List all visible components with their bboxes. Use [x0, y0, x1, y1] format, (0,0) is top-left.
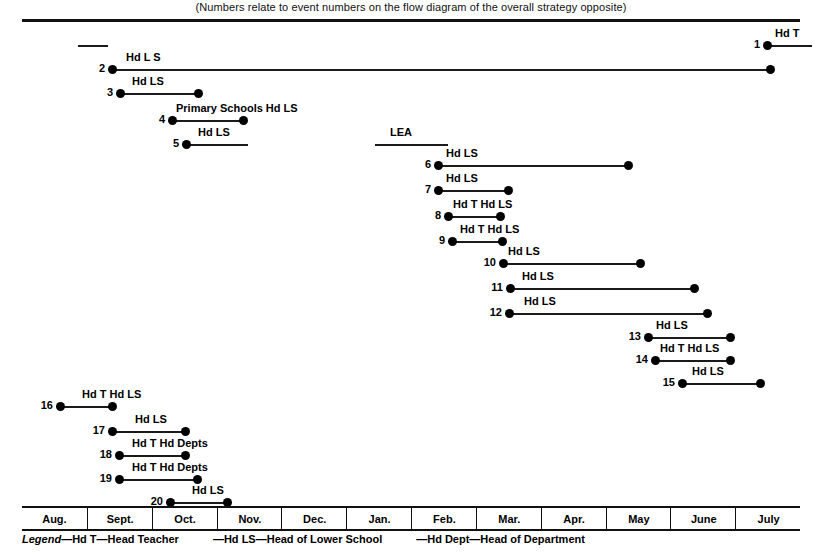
task-label: Hd LS — [135, 413, 167, 425]
task-number: 15 — [663, 376, 675, 388]
task-number: 3 — [107, 86, 113, 98]
task-bar — [172, 120, 243, 122]
task-bar — [78, 45, 108, 47]
task-start-dot — [448, 237, 457, 246]
task-label: Hd T — [775, 27, 799, 39]
task-bar — [448, 216, 500, 218]
task-row-8: 8Hd T Hd LS — [448, 211, 500, 223]
task-number: 4 — [159, 113, 165, 125]
legend-entry-hd-t: —Hd T—Head Teacher — [61, 533, 179, 545]
task-label: Hd T Hd Depts — [132, 437, 208, 449]
task-number: 5 — [173, 137, 179, 149]
task-row-15: 15Hd LS — [682, 378, 760, 390]
task-bar — [655, 360, 730, 362]
task-end-dot — [181, 451, 190, 460]
task-bar — [438, 190, 508, 192]
task-end-dot — [756, 379, 765, 388]
task-label: Hd T Hd Depts — [132, 461, 208, 473]
task-bar — [503, 263, 640, 265]
task-label: Hd LS — [508, 245, 540, 257]
task-end-dot — [636, 259, 645, 268]
task-end-dot — [690, 284, 699, 293]
task-bar — [510, 288, 694, 290]
task-end-dot — [703, 309, 712, 318]
task-row-6: 6Hd LS — [438, 160, 628, 172]
task-label: Hd LS — [524, 295, 556, 307]
task-row-3: 3Hd LS — [120, 88, 198, 100]
task-bar — [767, 45, 812, 47]
axis-month-apr: Apr. — [541, 508, 607, 529]
task-end-dot — [504, 186, 513, 195]
task-start-dot — [115, 451, 124, 460]
task-start-dot — [116, 89, 125, 98]
task-bar — [119, 479, 197, 481]
task-label: Hd LS — [656, 319, 688, 331]
task-start-dot — [499, 259, 508, 268]
task-number: 13 — [629, 330, 641, 342]
task-bar — [170, 502, 227, 504]
legend-title: Legend — [22, 533, 61, 545]
task-label: Hd LS — [192, 484, 224, 496]
axis-bottom-rule — [22, 529, 800, 531]
task-bar — [509, 313, 707, 315]
axis-month-oct: Oct. — [152, 508, 218, 529]
task-row-5: 5Hd LS — [186, 139, 248, 151]
task-start-dot — [444, 212, 453, 221]
task-start-dot — [505, 309, 514, 318]
task-row-9: 9Hd T Hd LS — [452, 236, 502, 248]
task-number: 11 — [491, 281, 503, 293]
task-label: Primary Schools Hd LS — [176, 102, 298, 114]
task-start-dot — [678, 379, 687, 388]
task-start-dot — [763, 41, 772, 50]
axis-month-july: July — [735, 508, 801, 529]
axis-month-nov: Nov. — [217, 508, 283, 529]
task-label: Hd LS — [132, 75, 164, 87]
axis-month-aug: Aug. — [22, 508, 87, 529]
chart-caption: (Numbers relate to event numbers on the … — [0, 1, 822, 13]
task-row-10: 10Hd LS — [503, 258, 640, 270]
task-label: Hd LS — [446, 172, 478, 184]
task-start-dot — [108, 65, 117, 74]
task-row-7: 7Hd LS — [438, 185, 508, 197]
task-number: 12 — [490, 306, 502, 318]
task-start-dot — [651, 356, 660, 365]
task-row-19: 19Hd T Hd Depts — [119, 474, 197, 486]
task-bar — [112, 69, 770, 71]
legend-entry-hd-ls: —Hd LS—Head of Lower School — [213, 533, 382, 545]
axis-month-jan: Jan. — [346, 508, 412, 529]
axis-month-dec: Dec. — [281, 508, 347, 529]
task-label: Hd T Hd LS — [453, 198, 512, 210]
task-start-dot — [108, 427, 117, 436]
task-row-2: 2Hd L S — [112, 64, 770, 76]
task-end-dot — [766, 65, 775, 74]
task-bar — [438, 165, 628, 167]
axis-month-sept: Sept. — [87, 508, 153, 529]
task-end-dot — [726, 356, 735, 365]
task-label: Hd T Hd LS — [660, 342, 719, 354]
month-axis: Aug.Sept.Oct.Nov.Dec.Jan.Feb.Mar.Apr.May… — [22, 508, 800, 529]
task-start-dot — [168, 116, 177, 125]
legend: Legend—Hd T—Head Teacher—Hd LS—Head of L… — [22, 533, 800, 549]
gantt-chart: (Numbers relate to event numbers on the … — [0, 0, 822, 552]
task-row-11: 11Hd LS — [510, 283, 694, 295]
task-row-16: 16Hd T Hd LS — [60, 401, 112, 413]
task-number: 10 — [484, 256, 496, 268]
task-number: 19 — [100, 472, 112, 484]
task-end-dot — [194, 89, 203, 98]
task-label: Hd LS — [522, 270, 554, 282]
task-label: Hd LS — [692, 365, 724, 377]
task-end-dot — [498, 237, 507, 246]
task-start-dot — [644, 333, 653, 342]
task-row-1: 1Hd T — [767, 40, 812, 52]
task-label: Hd L S — [126, 51, 161, 63]
task-start-dot — [115, 475, 124, 484]
task-number: 1 — [754, 38, 760, 50]
task-start-dot — [434, 186, 443, 195]
task-bar — [648, 337, 730, 339]
task-number: 16 — [41, 399, 53, 411]
task-bar — [452, 241, 502, 243]
task-start-dot — [56, 402, 65, 411]
axis-month-feb: Feb. — [411, 508, 477, 529]
task-label: Hd T Hd LS — [460, 223, 519, 235]
task-row-plain: LEA — [375, 139, 448, 151]
